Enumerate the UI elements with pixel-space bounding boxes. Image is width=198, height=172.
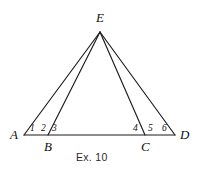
- vertex-label-D: D: [180, 128, 189, 141]
- segment-EC: [100, 32, 145, 135]
- vertex-label-C: C: [141, 140, 150, 153]
- angle-label-1: 1: [30, 124, 35, 134]
- vertex-label-A: A: [10, 128, 18, 141]
- angle-label-3: 3: [52, 124, 57, 134]
- angle-label-2: 2: [41, 124, 46, 134]
- segment-EB: [48, 32, 100, 135]
- angle-label-5: 5: [148, 124, 153, 134]
- vertex-label-B: B: [44, 140, 52, 153]
- figure-caption: Ex. 10: [76, 152, 108, 163]
- segment-EA: [24, 32, 100, 135]
- vertex-label-E: E: [96, 11, 104, 24]
- geometry-diagram: [0, 0, 198, 172]
- diagram-strokes: [24, 32, 175, 135]
- segment-ED: [100, 32, 175, 135]
- figure-root: E A B C D 1 2 3 4 5 6 Ex. 10: [0, 0, 198, 172]
- angle-label-6: 6: [162, 124, 167, 134]
- angle-label-4: 4: [133, 124, 138, 134]
